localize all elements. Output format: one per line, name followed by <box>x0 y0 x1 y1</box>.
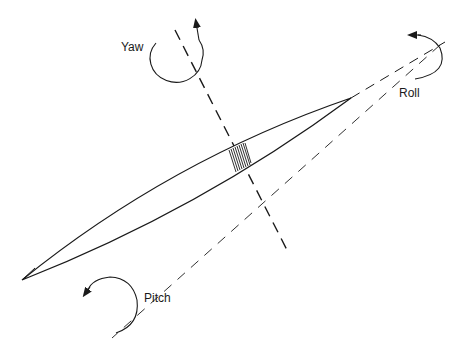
roll-axis <box>351 42 445 98</box>
yaw-label: Yaw <box>121 40 143 54</box>
roll-rotation-arrow-icon <box>411 35 442 79</box>
yaw-rotation-arrow-icon <box>150 22 203 82</box>
roll-label: Roll <box>399 86 420 100</box>
aircraft-body <box>22 98 351 280</box>
pitch-label: Pitch <box>144 291 171 305</box>
rotation-axes-diagram: Yaw Roll Pitch <box>0 0 462 353</box>
pitch-rotation-arrow-icon <box>85 277 137 333</box>
